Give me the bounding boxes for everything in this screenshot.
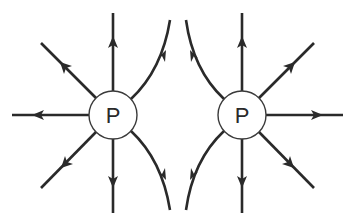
field-lines-diagram: P P <box>0 0 343 219</box>
field-line-right-down-right <box>259 132 314 188</box>
right-charge: P <box>218 91 266 139</box>
field-line-right-up-right <box>259 43 314 98</box>
charge-label: P <box>235 103 250 128</box>
left-charge: P <box>89 91 137 139</box>
field-line-left-up-left <box>41 43 96 98</box>
charge-label: P <box>106 103 121 128</box>
field-line-left-down-left <box>41 132 96 188</box>
